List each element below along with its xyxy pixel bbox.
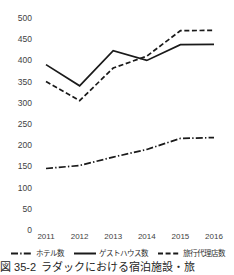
figure-container: 500450400350300250200150100500 201120122…: [0, 0, 234, 275]
series-line-solid: [46, 44, 214, 86]
legend-label: ゲストハウス数: [99, 249, 148, 258]
y-tick-label: 0: [0, 226, 32, 235]
series-line-dash-dot: [46, 138, 214, 169]
legend-swatch-dash-dot: [10, 249, 34, 258]
x-tick-label: 2015: [171, 232, 189, 242]
y-tick-label: 400: [0, 56, 32, 65]
y-tick-label: 350: [0, 77, 32, 86]
caption-number: 図 35-2: [0, 261, 36, 273]
x-tick-label: 2016: [205, 232, 223, 242]
legend-item[interactable]: ホテル数: [10, 249, 64, 258]
legend-label: 旅行代理店数: [183, 249, 225, 258]
y-tick-label: 200: [0, 141, 32, 150]
y-tick-label: 150: [0, 162, 32, 171]
legend-label: ホテル数: [36, 249, 64, 258]
y-axis: 500450400350300250200150100500: [0, 18, 32, 230]
x-tick-label: 2012: [71, 232, 89, 242]
x-axis: 201120122013201420152016: [36, 232, 224, 246]
caption-text: ラダックにおける宿泊施設・旅: [41, 261, 195, 273]
legend-swatch-solid: [73, 249, 97, 258]
line-chart-svg: [36, 18, 224, 230]
figure-caption: 図 35-2ラダックにおける宿泊施設・旅: [0, 260, 234, 275]
chart-area: 500450400350300250200150100500 201120122…: [0, 0, 234, 240]
y-tick-label: 250: [0, 120, 32, 129]
y-tick-label: 300: [0, 99, 32, 108]
legend-item[interactable]: 旅行代理店数: [157, 249, 225, 258]
legend-swatch-dashed: [157, 249, 181, 258]
y-tick-label: 50: [0, 205, 32, 214]
series-line-dashed: [46, 30, 214, 100]
chart-legend: ホテル数ゲストハウス数旅行代理店数: [0, 246, 234, 260]
legend-item[interactable]: ゲストハウス数: [73, 249, 148, 258]
y-tick-label: 100: [0, 183, 32, 192]
y-tick-label: 450: [0, 35, 32, 44]
y-tick-label: 500: [0, 14, 32, 23]
plot-area: [36, 18, 224, 230]
x-tick-label: 2011: [37, 232, 54, 242]
x-tick-label: 2013: [104, 232, 122, 242]
x-tick-label: 2014: [138, 232, 156, 242]
